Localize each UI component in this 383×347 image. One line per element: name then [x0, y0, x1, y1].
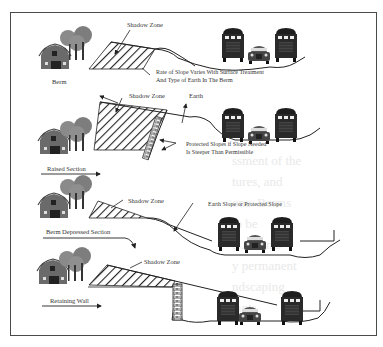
earth-label: Earth: [189, 92, 204, 99]
depressed-ground-line: [147, 218, 340, 258]
section-arrow: [43, 238, 135, 248]
truck-front-icon: [275, 108, 297, 142]
panel-berm: Shadow Zone Berm Rate of Slope Varies Wi…: [39, 21, 305, 85]
shadow-zone-pointer: [111, 200, 123, 208]
slope-note-pointer: [142, 68, 150, 75]
note-line: And Type of Earth In The Berm: [156, 77, 233, 83]
section-label: Berm: [52, 78, 66, 85]
protected-slope-pointer: [160, 140, 176, 143]
shadow-zone-label: Shadow Zone: [127, 21, 163, 28]
truck-front-icon: [275, 28, 297, 62]
protected-slope-pointer: [162, 143, 176, 150]
slope-pointer: [174, 203, 193, 231]
panel-retaining-wall: Shadow Zone Retaining Wall: [37, 247, 330, 325]
shadow-zone-label: Shadow Zone: [128, 197, 164, 204]
panel-raised-section: Shadow Zone Earth Protected Slopes if Sl…: [38, 92, 320, 174]
barn-house-icon: [38, 193, 70, 218]
car-front-icon: [244, 235, 266, 253]
section-label: Retaining Wall: [50, 297, 89, 304]
truck-front-icon: [218, 217, 240, 251]
truck-front-icon: [217, 291, 239, 325]
earth-pointer: [182, 104, 186, 123]
car-front-icon: [239, 307, 261, 325]
note-line: Rate of Slope Varies With Surface Treatm…: [156, 69, 264, 75]
right-barrier: [303, 300, 320, 311]
section-label: Berm Depressed Section: [46, 228, 111, 235]
truck-front-icon: [281, 291, 303, 325]
truck-front-icon: [222, 108, 244, 142]
truck-front-icon: [222, 28, 244, 62]
car-front-icon: [248, 46, 270, 64]
shadow-zone-hatch: [89, 265, 175, 287]
noise-barrier-diagram: Shadow Zone Berm Rate of Slope Varies Wi…: [0, 0, 383, 347]
panel-berm-depressed: Shadow Zone Earth Slope or Protected Slo…: [38, 175, 340, 258]
note-line: Is Steeper Than Permissible: [186, 149, 253, 155]
shadow-zone-hatch: [89, 42, 155, 69]
retaining-wall-icon: [173, 284, 182, 320]
barn-house-icon: [39, 44, 71, 69]
right-barrier: [300, 230, 334, 241]
section-label: Raised Section: [47, 165, 87, 172]
shadow-zone-label: Shadow Zone: [129, 92, 165, 99]
truck-front-icon: [271, 217, 293, 251]
shadow-zone-label: Shadow Zone: [144, 258, 180, 265]
note-line: Earth Slope or Protected Slope: [208, 201, 282, 207]
shadow-zone-pointer: [130, 262, 142, 268]
note-line: Protected Slopes if Slope Needed: [186, 141, 266, 147]
